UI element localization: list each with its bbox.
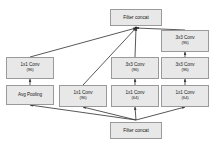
top-concat-junction-dot (134, 26, 137, 29)
node-sublabel: (64) (131, 96, 138, 100)
node-conv3x3-mid[interactable]: 3x3 Conv (96) (111, 57, 159, 79)
edge-concat-bottom-to-avg-pooling (30, 105, 136, 120)
node-filter-concat-bottom[interactable]: Filter concat (110, 122, 162, 139)
edge-concat-bottom-to-conv1x1-second (83, 107, 136, 120)
node-conv3x3-right-bottom[interactable]: 3x3 Conv (96) (161, 57, 209, 79)
node-conv1x1-right[interactable]: 1x1 Conv (64) (161, 85, 209, 107)
node-conv3x3-right-top[interactable]: 3x3 Conv (96) (161, 30, 209, 52)
node-label: Avg Pooling (18, 93, 42, 98)
node-sublabel: (96) (181, 68, 188, 72)
node-label: Filter concat (123, 15, 148, 20)
edge-concat-bottom-to-conv1x1-mid (135, 107, 136, 120)
node-sublabel: (96) (79, 96, 86, 100)
node-sublabel: (96) (26, 68, 33, 72)
node-conv1x1-left[interactable]: 1x1 Conv (96) (6, 57, 54, 79)
node-sublabel: (96) (131, 68, 138, 72)
node-avg-pooling[interactable]: Avg Pooling (6, 85, 54, 105)
edge-concat-bottom-to-conv1x1-right (136, 107, 185, 120)
node-filter-concat-top[interactable]: Filter concat (110, 9, 162, 26)
edge-conv3x3-mid-to-concat-top (135, 28, 136, 57)
node-label: Filter concat (123, 128, 148, 133)
node-sublabel: (96) (181, 41, 188, 45)
node-conv1x1-mid[interactable]: 1x1 Conv (64) (111, 85, 159, 107)
node-conv1x1-second[interactable]: 1x1 Conv (96) (59, 85, 107, 107)
edge-conv1x1-left-to-concat-top (30, 28, 136, 57)
diagram-canvas: Filter concat 3x3 Conv (96) 1x1 Conv (96… (0, 0, 215, 144)
node-sublabel: (64) (181, 96, 188, 100)
